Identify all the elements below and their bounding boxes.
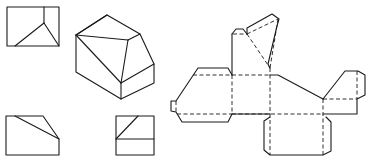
- net-development: [171, 14, 365, 155]
- diagram-canvas: [0, 0, 373, 160]
- top-view: [7, 7, 59, 46]
- side-view: [116, 116, 154, 155]
- isometric-view: [76, 15, 154, 99]
- front-view: [6, 116, 59, 155]
